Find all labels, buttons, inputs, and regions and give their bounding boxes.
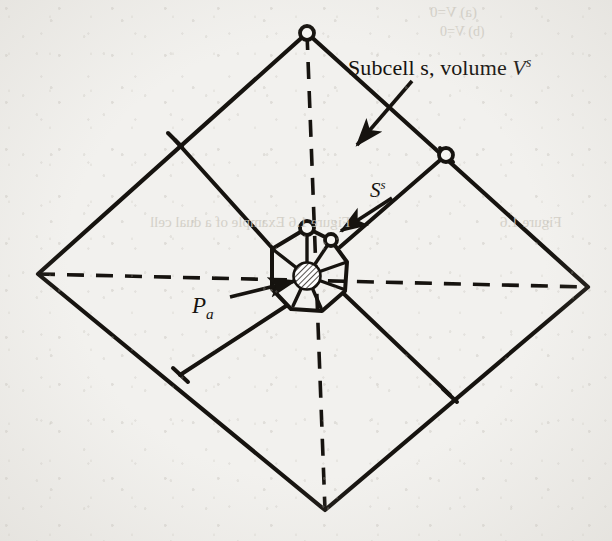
label-surface-ss: Ss: [370, 178, 386, 201]
subcell-leader-arrow: [357, 81, 412, 145]
node-upper-right-edge: [439, 148, 453, 162]
node-dual-upper-right: [325, 234, 337, 246]
label-subcell-symbol: V: [512, 55, 526, 80]
median-lower-right: [344, 294, 450, 395]
label-subcell-volume: Subcell s, volume Vs: [348, 56, 531, 79]
node-dual-top: [300, 221, 314, 235]
label-point-pa: Pa: [192, 294, 214, 321]
diagram-svg: [0, 0, 612, 541]
median-upper-right: [340, 155, 446, 247]
central-node-pa: [294, 263, 321, 290]
label-surface-symbol: S: [370, 178, 381, 202]
figure-canvas: (a) V=0 (b) V=0 Figure 1.6 Example of a …: [0, 0, 612, 541]
label-subcell-superscript: s: [526, 55, 531, 70]
label-point-subscript: a: [206, 305, 214, 322]
point-leader-arrow: [230, 281, 295, 297]
label-subcell-text: Subcell s, volume: [348, 55, 512, 80]
node-top-vertex: [300, 26, 314, 40]
label-surface-superscript: s: [381, 177, 386, 192]
label-point-symbol: P: [192, 293, 206, 318]
median-upper-left: [175, 140, 274, 250]
